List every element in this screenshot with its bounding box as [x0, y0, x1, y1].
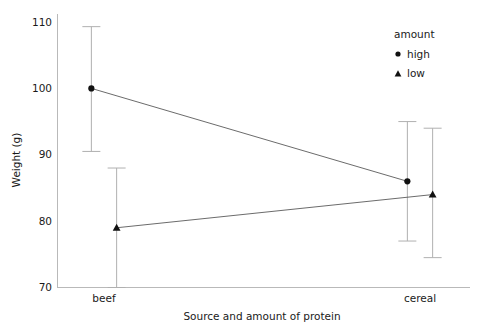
legend: amount high low: [394, 28, 435, 79]
series-line-low: [117, 195, 433, 228]
y-tick-label-100: 100: [32, 82, 52, 94]
x-axis-title: Source and amount of protein: [183, 310, 340, 322]
y-tick-label-80: 80: [39, 215, 52, 227]
legend-label-high[interactable]: high: [407, 48, 430, 60]
interaction-plot-figure: 110 100 90 80 70 Weight (g) beef cereal …: [0, 0, 486, 330]
y-tick-label-70: 70: [39, 281, 52, 293]
y-tick-label-110: 110: [32, 16, 52, 28]
x-tick-label-cereal: cereal: [404, 292, 436, 304]
chart-canvas: 110 100 90 80 70 Weight (g) beef cereal …: [0, 0, 486, 330]
data-point-high-beef: [88, 85, 94, 91]
legend-title: amount: [394, 28, 435, 40]
x-tick-label-beef: beef: [92, 292, 116, 304]
y-tick-label-90: 90: [39, 148, 52, 160]
series-line-high: [91, 88, 407, 181]
y-axis-title: Weight (g): [10, 133, 22, 188]
legend-label-low[interactable]: low: [407, 67, 425, 79]
data-point-high-cereal: [404, 178, 410, 184]
legend-marker-low-icon: [395, 70, 402, 76]
data-point-low-cereal: [429, 190, 437, 197]
plot-data-layer: [82, 27, 441, 288]
legend-marker-high-icon: [395, 51, 400, 56]
